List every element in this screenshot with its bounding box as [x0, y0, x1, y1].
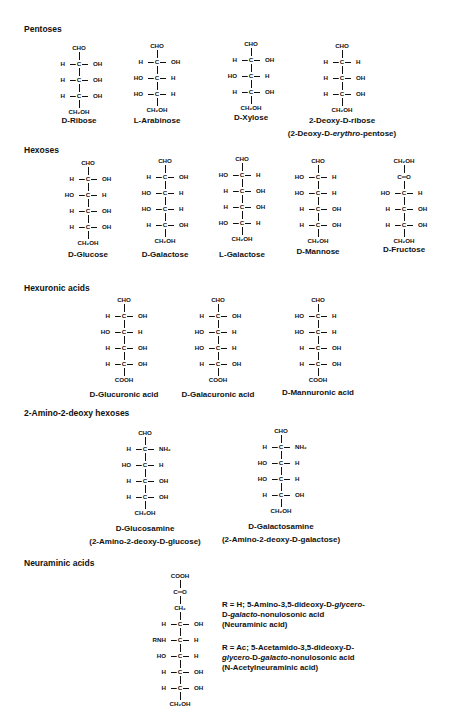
bottom-group-label: CH₂OH [231, 235, 254, 242]
bond-line [245, 207, 251, 208]
bond-line [145, 501, 146, 509]
top-group-label: CHO [116, 296, 132, 303]
bottom-group-label: CH₂OH [68, 108, 91, 115]
bond-line [321, 177, 327, 178]
bond-line [124, 336, 125, 344]
bond-line [218, 368, 219, 376]
right-substituent: OH [179, 173, 188, 180]
bond-line [321, 348, 327, 349]
right-substituent: H [295, 475, 299, 482]
bond-line [251, 64, 252, 72]
bottom-group: COOH [178, 372, 258, 388]
bond-line [148, 497, 154, 498]
right-substituent: OH [194, 684, 203, 691]
bond-line [180, 596, 181, 604]
bond-line [321, 316, 327, 317]
structure-glucosamine: CHOHCNH₂HOCHHCOHHCOHCH₂OH [105, 425, 185, 521]
bond-line [180, 644, 181, 652]
left-substituent: H [106, 312, 110, 319]
left-substituent: H [127, 445, 131, 452]
bottom-group: CH₂OH [48, 235, 128, 251]
left-substituent: H [106, 344, 110, 351]
right-substituent: H [256, 171, 260, 178]
right-substituent: OH [256, 203, 265, 210]
bond-line [168, 193, 174, 194]
top-group-label: CHO [210, 296, 226, 303]
bond-line [345, 78, 351, 79]
bond-line [242, 211, 243, 219]
compound-subname-glucosamine: (2-Amino-2-deoxy-D-glucose) [75, 537, 215, 546]
left-substituent: H [162, 684, 166, 691]
left-substituent: HO [219, 171, 228, 178]
right-substituent: OH [138, 312, 147, 319]
bond-line [124, 352, 125, 360]
structure-galactosamine: CHOHCNH₂HOCHHOCHHCOHCH₂OH [241, 423, 321, 519]
left-substituent: H [263, 443, 267, 450]
bond-line [407, 209, 413, 210]
bond-line [79, 84, 80, 92]
bond-line [127, 316, 133, 317]
bond-line [82, 96, 88, 97]
left-substituent: HO [157, 652, 166, 659]
subname-italic: erythro [333, 129, 361, 138]
structure-mannuronic: CHOHOCHHOCHHCOHHCOHCOOH [278, 292, 358, 388]
bond-line [342, 66, 343, 74]
left-substituent: H [300, 360, 304, 367]
left-substituent: H [233, 88, 237, 95]
right-substituent: H [179, 205, 183, 212]
bottom-group-label: CH₂OH [146, 106, 169, 113]
keto-group-label: C═O [172, 588, 188, 595]
bond-line [318, 229, 319, 237]
bottom-group-label: CH₂OH [270, 507, 293, 514]
left-substituent: H [70, 175, 74, 182]
left-substituent: H [386, 221, 390, 228]
bond-line [145, 485, 146, 493]
right-substituent: OH [265, 88, 274, 95]
left-substituent: H [263, 491, 267, 498]
left-substituent: H [61, 92, 65, 99]
right-substituent: OH [93, 76, 102, 83]
bond-line [284, 495, 290, 496]
bond-line [342, 50, 343, 58]
structure-galacuronic: CHOHCOHHOCHHOCHHCOHCOOH [178, 292, 258, 388]
right-substituent: OH [102, 223, 111, 230]
bond-line [165, 165, 166, 173]
subname-part: -pentose) [360, 129, 396, 138]
bond-line [180, 676, 181, 684]
bond-line [251, 96, 252, 104]
bond-line [318, 197, 319, 205]
left-substituent: H [106, 360, 110, 367]
right-substituent: H [356, 58, 360, 65]
bond-line [318, 352, 319, 360]
left-substituent: H [127, 493, 131, 500]
bond-line [145, 469, 146, 477]
left-substituent: H [147, 173, 151, 180]
bond-line [82, 80, 88, 81]
bottom-group: CH₂OH [241, 503, 321, 519]
bond-line [82, 64, 88, 65]
left-substituent: HO [134, 90, 143, 97]
bond-line [168, 225, 174, 226]
bond-line [180, 660, 181, 668]
bond-line [165, 229, 166, 237]
left-substituent: H [224, 203, 228, 210]
bond-line [91, 227, 97, 228]
right-substituent: OH [418, 221, 427, 228]
left-substituent: H [300, 344, 304, 351]
left-substituent: H [324, 90, 328, 97]
section-title-neuraminic: Neuraminic acids [24, 558, 94, 568]
bond-line [242, 163, 243, 171]
bond-line [404, 213, 405, 221]
right-substituent: OH [194, 668, 203, 675]
bond-line [281, 467, 282, 475]
bond-line [242, 179, 243, 187]
bond-line [245, 191, 251, 192]
right-substituent: OH [295, 491, 304, 498]
bond-line [321, 225, 327, 226]
bond-line [242, 195, 243, 203]
bond-line [88, 167, 89, 175]
bond-line [284, 479, 290, 480]
bond-line [160, 94, 166, 95]
left-substituent: HO [219, 219, 228, 226]
bond-line [318, 304, 319, 312]
